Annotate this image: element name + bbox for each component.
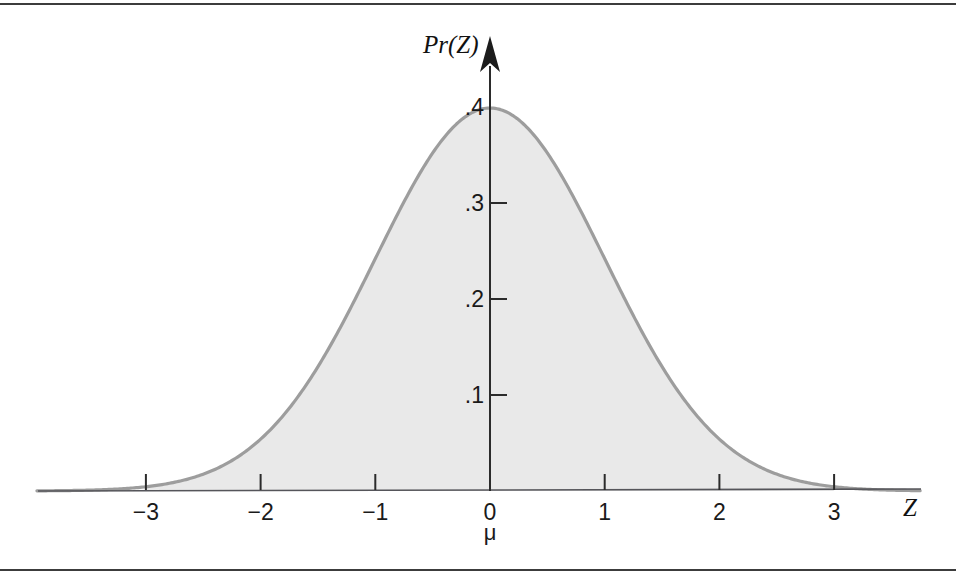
x-tick-label: −1 bbox=[362, 501, 388, 524]
y-tick-label: .3 bbox=[456, 192, 484, 215]
x-tick-label: 3 bbox=[828, 501, 841, 524]
x-tick-label: 2 bbox=[713, 501, 726, 524]
y-tick-label: .1 bbox=[456, 384, 484, 407]
y-axis-title: Pr(Z) bbox=[423, 32, 479, 57]
y-tick-label: .4 bbox=[456, 96, 484, 119]
x-axis-title: Z bbox=[903, 495, 917, 520]
x-tick-label: −2 bbox=[247, 501, 273, 524]
x-tick-label: −3 bbox=[133, 501, 159, 524]
figure-page: −3−2−10123 .1.2.3.4 Pr(Z) Z μ bbox=[0, 0, 956, 587]
mean-mu-label: μ bbox=[484, 522, 497, 544]
y-tick-label: .2 bbox=[456, 288, 484, 311]
x-tick-label: 1 bbox=[598, 501, 611, 524]
